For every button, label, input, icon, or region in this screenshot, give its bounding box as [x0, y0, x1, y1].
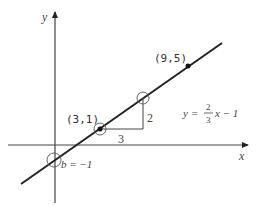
- line-equation: y = 2 3 x − 1: [182, 102, 238, 125]
- slope-numerator: 2: [206, 102, 211, 112]
- run-label: 3: [118, 132, 124, 146]
- point-3-1-dot: [98, 127, 103, 132]
- intercept-label: b = −1: [61, 158, 92, 170]
- equation-lhs: y =: [182, 107, 198, 119]
- slope-denominator: 3: [206, 115, 211, 125]
- equation-rhs: x − 1: [214, 107, 238, 119]
- point-9-5-label: (9,5): [154, 52, 187, 65]
- y-axis-label: y: [41, 10, 48, 24]
- rise-label: 2: [147, 111, 153, 125]
- x-axis-label: x: [238, 149, 245, 163]
- point-3-1-label: (3,1): [66, 113, 99, 126]
- coordinate-plane: x y 3 2 (3,1) (9,5) b = −1 y = 2 3 x − 1: [0, 0, 257, 207]
